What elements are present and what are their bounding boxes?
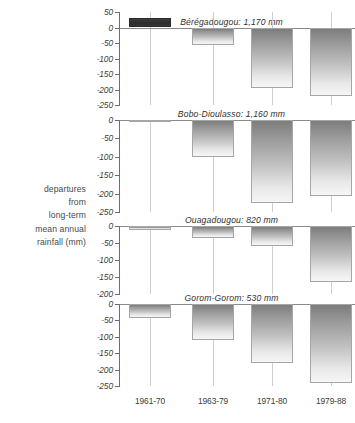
panel-bobo-dioulasso: 0-50-100-150-200-250Bobo-Dioulasso: 1,16…	[96, 120, 355, 212]
bar-1979-88	[310, 28, 352, 96]
y-tick	[115, 105, 120, 106]
plot-area	[120, 226, 355, 294]
y-axis-caption-line-3: long-term	[0, 209, 86, 222]
y-tick-label: -150	[96, 349, 113, 357]
y-axis-caption-line-5: rainfall (mm)	[0, 236, 86, 249]
y-tick-label: 0	[96, 24, 113, 32]
y-tick-label: 0	[96, 300, 113, 308]
gridline-1963-79	[213, 12, 214, 105]
y-axis-caption-line-4: mean annual	[0, 223, 86, 236]
x-axis-label-1961-70: 1961-70	[135, 396, 165, 406]
y-tick-label: -150	[96, 273, 113, 281]
bar-1971-80	[251, 28, 293, 88]
y-tick-label: -200	[96, 190, 113, 198]
y-tick-label: -200	[96, 86, 113, 94]
y-tick-label: -50	[96, 39, 113, 47]
bar-1961-70	[129, 304, 171, 318]
y-tick-label: -250	[96, 208, 113, 216]
y-tick-label: 50	[96, 8, 113, 16]
y-tick-label: -250	[96, 101, 113, 109]
panel-gorom-gorom: 0-50-100-150-200-250Gorom-Gorom: 530 mm	[96, 304, 355, 386]
panel-beregadougou: 500-50-100-150-200-250Bérégadougou: 1,17…	[96, 12, 355, 105]
plot-area	[120, 120, 355, 212]
y-tick	[115, 212, 120, 213]
y-tick-label: -200	[96, 366, 113, 374]
y-axis-caption-line-1: departures	[0, 183, 86, 196]
gridline-1961-70	[150, 226, 151, 294]
bar-1971-80	[251, 304, 293, 363]
y-tick-label: 0	[96, 222, 113, 230]
y-tick-label: -50	[96, 316, 113, 324]
bar-1961-70	[129, 226, 171, 230]
bar-1963-79	[192, 120, 234, 157]
y-axis-caption: departures from long-term mean annual ra…	[0, 183, 86, 249]
gridline-1961-70	[150, 120, 151, 212]
panel-ouagadougou: 0-50-100-150-200Ouagadougou: 820 mm	[96, 226, 355, 294]
bar-1979-88	[310, 226, 352, 282]
bar-1963-79	[192, 304, 234, 340]
y-tick-label: -200	[96, 290, 113, 298]
plot-area	[120, 12, 355, 105]
bar-1979-88	[310, 304, 352, 383]
y-tick-label: -100	[96, 256, 113, 264]
bar-1971-80	[251, 226, 293, 246]
y-tick-label: -50	[96, 239, 113, 247]
y-tick-label: -100	[96, 153, 113, 161]
bar-1979-88	[310, 120, 352, 196]
y-tick-label: 0	[96, 116, 113, 124]
panel-title: Ouagadougou: 820 mm	[185, 215, 278, 225]
bar-1963-79	[192, 28, 234, 46]
y-tick-label: -100	[96, 333, 113, 341]
rainfall-departure-chart: departures from long-term mean annual ra…	[0, 0, 355, 423]
bar-1971-80	[251, 120, 293, 203]
plot-area	[120, 304, 355, 386]
y-tick	[115, 386, 120, 387]
y-tick-label: -150	[96, 171, 113, 179]
x-axis-label-1963-79: 1963-79	[198, 396, 228, 406]
y-axis-caption-line-2: from	[0, 196, 86, 209]
bar-1961-70	[129, 120, 171, 122]
bar-1963-79	[192, 226, 234, 238]
y-tick	[115, 294, 120, 295]
panel-title: Gorom-Gorom: 530 mm	[184, 293, 278, 303]
x-axis-label-1971-80: 1971-80	[257, 396, 287, 406]
y-tick-label: -100	[96, 55, 113, 63]
y-tick-label: -250	[96, 382, 113, 390]
y-tick-label: -50	[96, 134, 113, 142]
panel-title: Bobo-Dioulasso: 1,160 mm	[178, 109, 285, 119]
x-axis-label-1979-88: 1979-88	[316, 396, 346, 406]
bar-1961-70	[129, 18, 171, 27]
y-tick-label: -150	[96, 70, 113, 78]
